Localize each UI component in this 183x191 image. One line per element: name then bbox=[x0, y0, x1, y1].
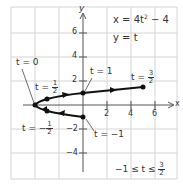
tick-x-2: 2 bbox=[104, 110, 109, 118]
label-t-neg1: t = −1 bbox=[94, 130, 124, 139]
label-t-three-halves: t = 32 bbox=[131, 70, 154, 85]
label-t-neg-half: t = −12 bbox=[22, 121, 53, 136]
tick-y-6: 6 bbox=[72, 28, 77, 36]
label-t0: t = 0 bbox=[16, 58, 39, 67]
tick-y-neg4: −4 bbox=[66, 149, 78, 157]
equation-y: y = t bbox=[113, 33, 138, 43]
y-axis-label: y bbox=[79, 4, 84, 13]
equation-x: x = 4t2 − 4 bbox=[113, 14, 169, 25]
tick-y-neg2: −2 bbox=[66, 125, 78, 133]
label-t1: t = 1 bbox=[90, 67, 113, 76]
x-axis-label: x bbox=[175, 100, 180, 108]
arrow-right-icon bbox=[110, 87, 117, 93]
tick-x-4: 4 bbox=[128, 110, 133, 118]
tick-x-6: 6 bbox=[152, 110, 157, 118]
tick-y-2: 2 bbox=[72, 76, 77, 84]
label-t-half: t = 12 bbox=[35, 80, 58, 95]
tick-y-4: 4 bbox=[72, 52, 77, 60]
interval-label: −1 ≤ t ≤ 32 bbox=[115, 162, 165, 177]
